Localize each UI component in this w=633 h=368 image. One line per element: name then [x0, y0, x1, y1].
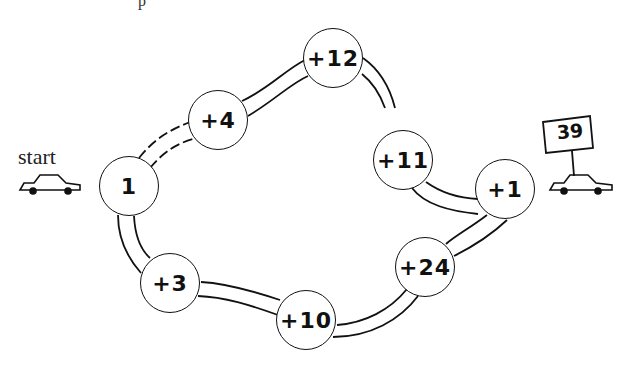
- node-plus-3: +3: [140, 253, 200, 313]
- node-plus-12: +12: [303, 28, 363, 88]
- goal-car-icon: [550, 175, 612, 194]
- node-plus-24: +24: [395, 237, 455, 297]
- node-start: 1: [99, 156, 159, 216]
- node-plus-1: +1: [475, 159, 535, 219]
- node-plus-11: +11: [373, 130, 433, 190]
- path-puzzle-diagram: p: [0, 0, 633, 368]
- node-plus-4: +4: [188, 90, 248, 150]
- start-car-icon: [20, 175, 80, 194]
- start-label: start: [18, 144, 56, 170]
- node-plus-10: +10: [276, 290, 336, 350]
- goal-sign-value: 39: [546, 118, 594, 144]
